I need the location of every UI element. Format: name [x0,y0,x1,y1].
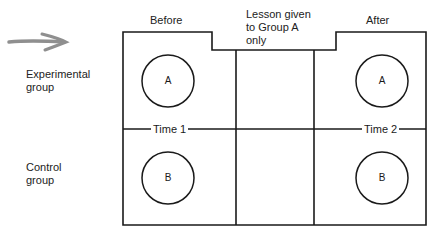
row-control-line-1: Control [26,161,61,174]
column-after-label: After [366,14,389,27]
group-a-after-label: A [372,75,392,86]
treatment-line-3: only [246,34,311,47]
row-control-label: Control group [26,161,61,187]
row-experimental-line-2: group [26,81,90,94]
diagram-canvas [0,0,442,243]
column-before-label: Before [150,14,182,27]
treatment-line-1: Lesson given [246,8,311,21]
group-a-before-label: A [158,75,178,86]
time-2-label: Time 2 [362,123,399,135]
column-treatment-label: Lesson given to Group A only [246,8,311,47]
arrow-icon [9,34,66,50]
row-experimental-line-1: Experimental [26,68,90,81]
row-control-line-2: group [26,174,61,187]
time-1-label: Time 1 [151,123,188,135]
treatment-line-2: to Group A [246,21,311,34]
group-b-after-label: B [372,172,392,183]
row-experimental-label: Experimental group [26,68,90,94]
group-b-before-label: B [158,172,178,183]
